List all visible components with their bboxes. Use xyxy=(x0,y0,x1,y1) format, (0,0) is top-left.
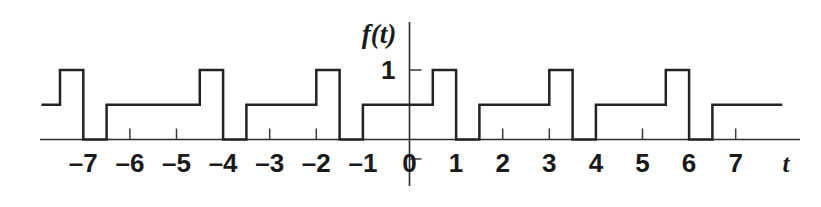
x-tick-label: 1 xyxy=(449,148,463,178)
x-tick-label: –2 xyxy=(302,148,331,178)
x-tick-label: –1 xyxy=(348,148,377,178)
x-tick-label-group: –7–6–5–4–3–2–101234567 xyxy=(69,148,743,178)
x-tick-label: –4 xyxy=(209,148,238,178)
x-tick-label: 7 xyxy=(728,148,742,178)
x-tick-label: 0 xyxy=(402,148,416,178)
x-tick-label: –5 xyxy=(162,148,191,178)
signal-group xyxy=(41,70,782,140)
x-tick-label: 5 xyxy=(635,148,649,178)
x-tick-label: –3 xyxy=(255,148,284,178)
y-tick-label: 1 xyxy=(381,55,395,85)
x-axis-label: t xyxy=(783,150,791,177)
x-tick-label: –6 xyxy=(115,148,144,178)
x-tick-label: 3 xyxy=(542,148,556,178)
x-tick-label: 4 xyxy=(589,148,604,178)
waveform-figure: –7–6–5–4–3–2–101234567 1 t f(t) xyxy=(0,0,821,207)
x-tick-label: –7 xyxy=(69,148,98,178)
x-tick-label: 6 xyxy=(682,148,696,178)
y-tick-label-group: 1 xyxy=(381,55,395,85)
signal-waveform xyxy=(41,70,782,140)
x-tick-label: 2 xyxy=(495,148,509,178)
plot-canvas: –7–6–5–4–3–2–101234567 1 t f(t) xyxy=(0,0,821,207)
y-tick-marks xyxy=(410,70,422,159)
y-axis-label: f(t) xyxy=(362,19,396,49)
